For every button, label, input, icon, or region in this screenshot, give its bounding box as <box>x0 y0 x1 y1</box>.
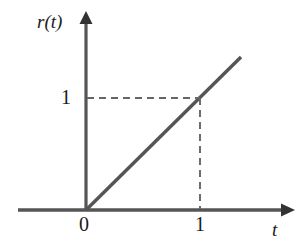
origin-label: 0 <box>79 214 89 234</box>
x-tick-label-1: 1 <box>195 214 205 234</box>
ramp-function-figure: r(t) t 1 0 1 <box>0 0 299 249</box>
y-tick-label-1: 1 <box>61 87 71 107</box>
x-axis-arrow-icon <box>281 204 295 217</box>
y-axis-arrow-icon <box>80 11 93 24</box>
plot-canvas <box>0 0 299 249</box>
ramp-line <box>86 57 241 210</box>
x-axis-label: t <box>272 220 277 239</box>
y-axis-label: r(t) <box>37 12 62 31</box>
